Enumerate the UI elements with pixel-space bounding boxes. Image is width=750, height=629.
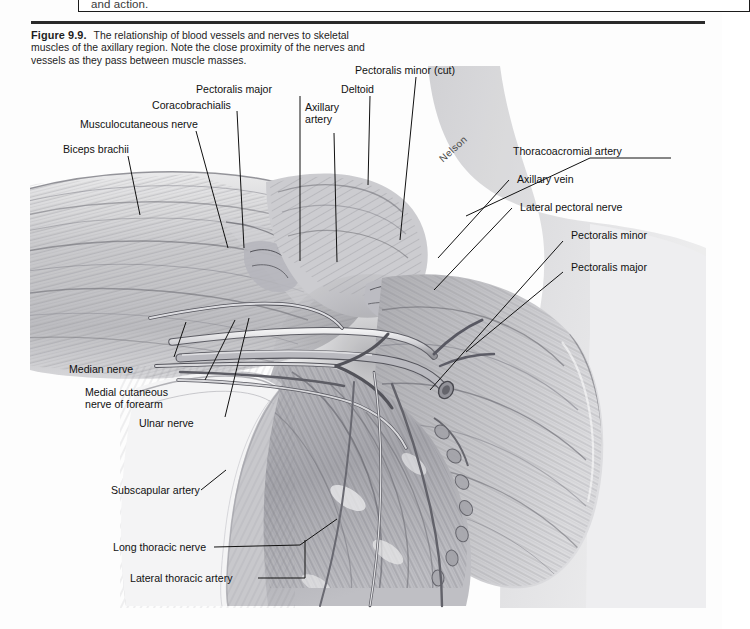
label-pectoralis-major-top: Pectoralis major <box>196 83 272 95</box>
label-thoracoacromial-artery: Thoracoacromial artery <box>513 145 622 157</box>
label-pectoralis-minor-cut: Pectoralis minor (cut) <box>355 64 455 76</box>
figure-number: Figure 9.9. <box>31 29 87 41</box>
label-deltoid: Deltoid <box>341 83 374 95</box>
previous-section-box: and action. <box>78 0 750 12</box>
label-axillary-artery: Axillary artery <box>305 101 339 125</box>
label-biceps-brachii: Biceps brachii <box>63 143 129 155</box>
label-pectoralis-minor: Pectoralis minor <box>571 229 647 241</box>
label-subscapular-artery: Subscapular artery <box>111 484 200 496</box>
label-long-thoracic-nerve: Long thoracic nerve <box>113 541 206 553</box>
label-ulnar-nerve: Ulnar nerve <box>139 417 194 429</box>
previous-section-text: and action. <box>91 0 148 10</box>
label-medial-cutaneous-nerve: Medial cutaneous nerve of forearm <box>85 386 168 410</box>
label-median-nerve: Median nerve <box>69 363 133 375</box>
label-musculocutaneous-nerve: Musculocutaneous nerve <box>80 118 198 130</box>
horizontal-rule <box>31 21 705 24</box>
label-lateral-pectoral-nerve: Lateral pectoral nerve <box>520 201 622 213</box>
label-lateral-thoracic-artery: Lateral thoracic artery <box>130 572 232 584</box>
label-coracobrachialis: Coracobrachialis <box>152 99 231 111</box>
label-pectoralis-major-right: Pectoralis major <box>571 261 647 273</box>
figure-caption: Figure 9.9.The relationship of blood ves… <box>31 29 371 67</box>
label-axillary-vein: Axillary vein <box>517 173 574 185</box>
